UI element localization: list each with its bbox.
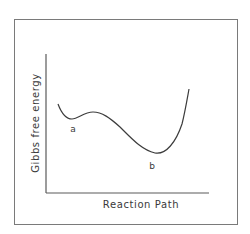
y-axis-label: Gibbs free energy <box>30 73 41 173</box>
minimum-b-label: b <box>149 161 155 171</box>
free-energy-curve <box>58 89 189 153</box>
x-axis-label: Reaction Path <box>103 199 179 210</box>
minimum-a-label: a <box>70 124 76 134</box>
